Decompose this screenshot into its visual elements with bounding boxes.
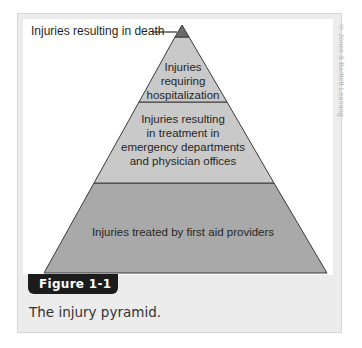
first-aid-label: Injuries treated by first aid providers (80, 225, 286, 239)
copyright-credit: © Jones & Bartlett Learning (331, 24, 345, 114)
figure-caption: The injury pyramid. (29, 304, 161, 320)
hospitalization-line-3: hospitalization (133, 88, 233, 102)
figure-number-tab: Figure 1-1 (28, 274, 118, 294)
treatment-label: Injuries resulting in treatment in emerg… (108, 112, 258, 168)
hospitalization-line-2: requiring (133, 74, 233, 88)
injury-pyramid (0, 0, 362, 348)
hospitalization-label: Injuries requiring hospitalization (133, 60, 233, 102)
treatment-line-2: in treatment in (108, 126, 258, 140)
layer-death (175, 25, 189, 37)
death-callout-label: Injuries resulting in death (31, 24, 164, 38)
treatment-line-3: emergency departments (108, 140, 258, 154)
hospitalization-line-1: Injuries (133, 60, 233, 74)
treatment-line-1: Injuries resulting (108, 112, 258, 126)
treatment-line-4: and physician offices (108, 154, 258, 168)
